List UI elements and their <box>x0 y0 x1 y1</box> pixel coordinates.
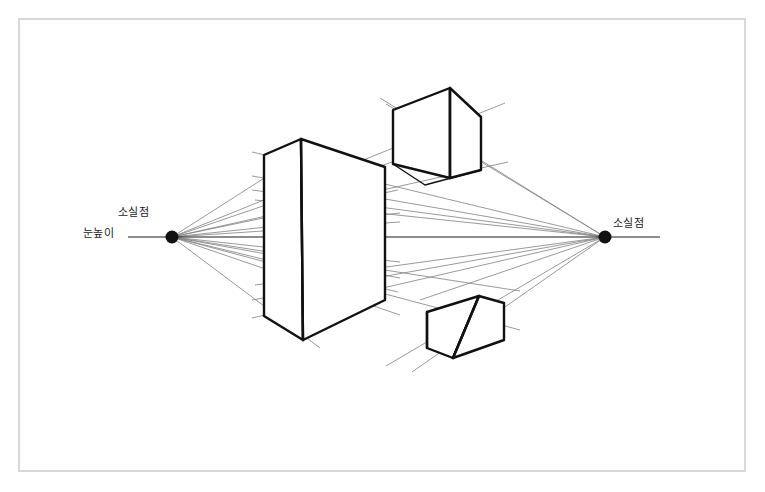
box-center <box>264 139 385 340</box>
label-right-vanishing-point: 소실점 <box>613 214 644 230</box>
left-vanishing-point-dot <box>166 231 179 244</box>
perspective-diagram <box>0 0 765 492</box>
label-eye-level: 눈높이 <box>83 224 114 240</box>
box-top <box>393 88 481 185</box>
label-left-vanishing-point: 소실점 <box>118 203 149 219</box>
box-bottom <box>427 296 504 358</box>
diagram-canvas: 소실점 눈높이 소실점 <box>0 0 765 492</box>
right-vanishing-point-dot <box>599 231 612 244</box>
